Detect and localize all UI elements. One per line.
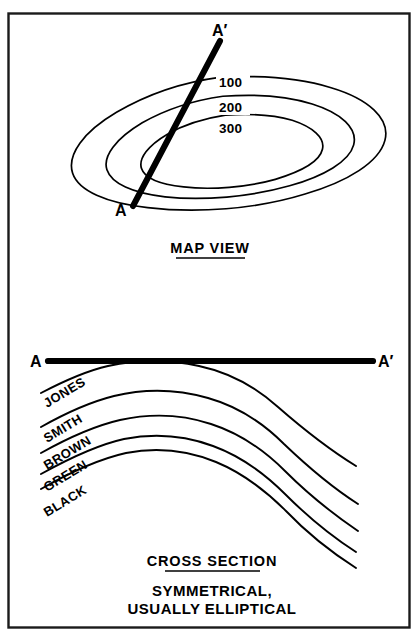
- cross-section-note-line-2: USUALLY ELLIPTICAL: [127, 600, 296, 617]
- figure-border-frame: [9, 14, 410, 628]
- cross-section-panel: A A′ JONES SMITH BROWN GREEN BLACK CROSS…: [30, 353, 394, 617]
- cross-section-end-label: A′: [378, 353, 394, 370]
- cross-section-caption: CROSS SECTION: [147, 553, 277, 569]
- bed-label-jones: JONES: [41, 374, 88, 411]
- map-view-caption: MAP VIEW: [170, 240, 249, 256]
- map-section-line: [133, 41, 220, 206]
- cross-section-note-line-1: SYMMETRICAL,: [152, 582, 272, 599]
- map-view-panel: 100 200 300 A A′ MAP VIEW: [64, 22, 392, 258]
- map-section-end-label: A′: [212, 22, 228, 39]
- contour-label-100: 100: [219, 75, 242, 90]
- geology-figure: 100 200 300 A A′ MAP VIEW: [0, 0, 420, 638]
- cross-section-start-label: A: [30, 353, 42, 370]
- figure-root: 100 200 300 A A′ MAP VIEW: [0, 0, 420, 638]
- contour-label-200: 200: [219, 100, 242, 115]
- map-section-start-label: A: [115, 202, 127, 219]
- contour-label-300: 300: [219, 121, 242, 136]
